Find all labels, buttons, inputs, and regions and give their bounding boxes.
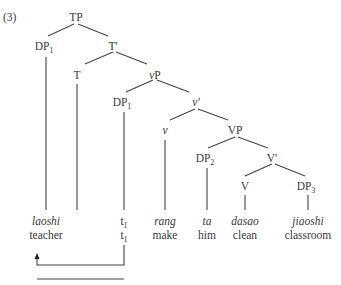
leaf-him: him xyxy=(198,229,216,241)
leaf-dasao: dasao xyxy=(231,215,259,227)
node-DP2: DP2 xyxy=(196,152,215,167)
leaf-trace-translation: t1 xyxy=(120,229,127,244)
arrowhead-up-icon xyxy=(35,253,40,259)
leaf-jiaoshi: jiaoshi xyxy=(290,215,323,228)
syntax-tree: (3) TP DP1 T' T vP DP1 xyxy=(0,0,341,285)
tree-leaves: laoshi teacher t1 t1 rang make ta him da… xyxy=(29,215,331,244)
node-T-bar: T' xyxy=(108,40,117,52)
node-DP1-top: DP1 xyxy=(35,40,54,55)
leaf-make: make xyxy=(153,229,178,241)
node-vP: vP xyxy=(149,69,161,81)
node-V-bar: V' xyxy=(267,152,277,164)
node-DP1-low: DP1 xyxy=(113,96,132,111)
leaf-ta: ta xyxy=(203,215,212,227)
leaf-rang: rang xyxy=(154,215,176,228)
example-number: (3) xyxy=(3,11,17,24)
leaf-teacher: teacher xyxy=(29,229,62,241)
node-DP3: DP3 xyxy=(297,180,316,195)
node-T: T xyxy=(73,69,80,81)
movement-arrow xyxy=(35,245,125,279)
leaf-clean: clean xyxy=(233,229,258,241)
node-v-bar: v' xyxy=(192,96,200,108)
leaf-laoshi: laoshi xyxy=(32,215,60,227)
leaf-classroom: classroom xyxy=(285,229,332,241)
node-v: v xyxy=(162,124,168,136)
node-TP: TP xyxy=(69,11,82,23)
node-VP: VP xyxy=(228,124,243,136)
node-V: V xyxy=(241,180,250,192)
tree-branches xyxy=(46,24,308,210)
leaf-trace-source: t1 xyxy=(120,215,127,230)
